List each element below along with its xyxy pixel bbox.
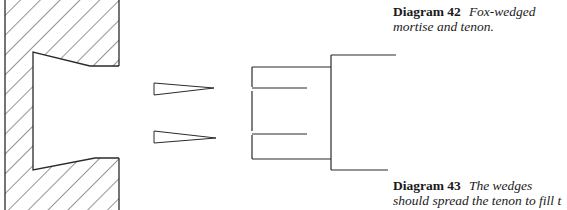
caption-text-line2: should spread the tenon to fill t: [393, 193, 561, 208]
caption-label: Diagram 42: [393, 4, 461, 19]
caption-label: Diagram 43: [393, 178, 461, 193]
caption-text-line1: Fox-wedged: [469, 4, 536, 19]
caption-diagram-42: Diagram 42Fox-wedged mortise and tenon.: [393, 4, 536, 34]
caption-text-line1: The wedges: [469, 178, 532, 193]
wedge-top: [154, 83, 214, 95]
slotted-tenon: [252, 67, 331, 159]
caption-text-line2: mortise and tenon.: [393, 19, 536, 34]
wedge-bottom: [154, 131, 216, 143]
caption-diagram-43: Diagram 43The wedges should spread the t…: [393, 178, 561, 208]
mortise-block: [5, 0, 119, 210]
rail: [331, 55, 396, 170]
mortise-cavity: [33, 52, 119, 170]
